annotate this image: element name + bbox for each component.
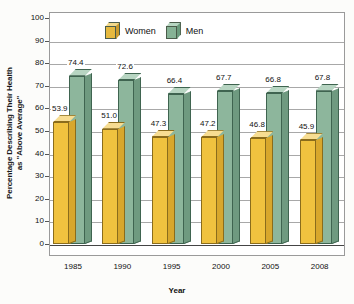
- cube-icon-men: [166, 22, 181, 40]
- y-tick-label: 0: [20, 240, 44, 248]
- bar-side-face: [69, 119, 76, 244]
- bar-value-label: 51.0: [100, 111, 118, 120]
- bar-front-face: [250, 138, 266, 244]
- bar-front-face: [300, 140, 316, 244]
- y-tick-label: 50: [20, 127, 44, 135]
- bar-women-1990: [102, 129, 118, 244]
- x-tick-label: 1990: [102, 262, 142, 271]
- chart-legend: Women Men: [105, 22, 203, 40]
- legend-item-women: Women: [105, 22, 156, 40]
- bar-side-face: [332, 88, 339, 244]
- bar-value-label: 47.3: [150, 119, 168, 128]
- bar-side-face: [184, 91, 191, 244]
- bar-value-label: 45.9: [298, 122, 316, 131]
- y-tick-label: 90: [20, 37, 44, 45]
- y-tick-label: 100: [20, 14, 44, 22]
- bar-women-2000: [201, 137, 217, 244]
- bar-value-label: 66.8: [264, 75, 282, 84]
- bar-front-face: [102, 129, 118, 244]
- legend-item-men: Men: [166, 22, 204, 40]
- bar-value-label: 66.4: [166, 76, 184, 85]
- bar-women-2008: [300, 140, 316, 244]
- bar-side-face: [118, 126, 125, 244]
- bar-side-face: [233, 88, 240, 244]
- x-tick-label: 2005: [250, 262, 290, 271]
- y-tick-label: 60: [20, 104, 44, 112]
- y-tick-label: 70: [20, 82, 44, 90]
- bar-front-face: [201, 137, 217, 244]
- y-tick-label: 20: [20, 195, 44, 203]
- bar-value-label: 53.9: [51, 104, 69, 113]
- bar-chart: Percentage Describing Their Health as "A…: [0, 0, 354, 304]
- bar-value-label: 67.8: [314, 73, 332, 82]
- bar-value-label: 47.2: [199, 119, 217, 128]
- bar-value-label: 74.4: [67, 58, 85, 67]
- legend-label-women: Women: [125, 26, 156, 36]
- bar-series-container: [49, 12, 345, 256]
- x-axis-title: Year: [0, 286, 354, 295]
- bar-front-face: [53, 122, 69, 244]
- x-tick-label: 1995: [152, 262, 192, 271]
- y-tick-label: 30: [20, 172, 44, 180]
- bar-women-1985: [53, 122, 69, 244]
- y-tick-label: 40: [20, 150, 44, 158]
- y-tick-label: 10: [20, 217, 44, 225]
- bar-women-2005: [250, 138, 266, 244]
- x-tick-label: 1985: [53, 262, 93, 271]
- bar-side-face: [266, 135, 273, 244]
- y-tick-label: 80: [20, 59, 44, 67]
- bar-value-label: 67.7: [215, 73, 233, 82]
- bar-side-face: [316, 137, 323, 244]
- bar-side-face: [168, 134, 175, 244]
- x-tick-label: 2008: [300, 262, 340, 271]
- bar-value-label: 72.6: [116, 62, 134, 71]
- bar-side-face: [85, 73, 92, 244]
- bar-value-label: 46.8: [248, 120, 266, 129]
- cube-icon-women: [105, 22, 120, 40]
- x-tick-label: 2000: [201, 262, 241, 271]
- legend-label-men: Men: [186, 26, 204, 36]
- bar-side-face: [134, 77, 141, 244]
- bar-front-face: [152, 137, 168, 244]
- bar-side-face: [217, 134, 224, 244]
- bar-side-face: [282, 90, 289, 244]
- y-axis-title-line1: Percentage Describing Their Health: [5, 67, 14, 199]
- bar-women-1995: [152, 137, 168, 244]
